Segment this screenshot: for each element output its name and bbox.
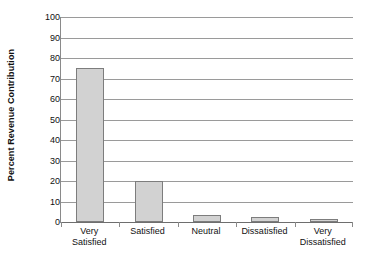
x-axis-label-line2: Dissatisfied (294, 237, 352, 248)
bars-group (61, 17, 353, 222)
y-axis-title: Percent Revenue Contribution (0, 0, 22, 230)
bar-slot (178, 17, 236, 222)
x-axis-label-line1: Dissatisfied (241, 226, 287, 236)
x-tick-mark (352, 222, 353, 227)
bar-slot (236, 17, 294, 222)
y-tick-label: 70 (34, 75, 60, 84)
y-tick-label: 10 (34, 198, 60, 207)
bar-satisfied[interactable] (135, 181, 163, 222)
x-axis-label-neutral: Neutral (177, 226, 235, 237)
bar-slot (119, 17, 177, 222)
y-tick-label: 60 (34, 95, 60, 104)
y-tick-label: 30 (34, 157, 60, 166)
x-axis-label-satisfied: Satisfied (118, 226, 176, 237)
x-axis-label-line2: Satisfied (60, 237, 118, 248)
y-tick-label: 20 (34, 177, 60, 186)
y-tick-label: 100 (34, 13, 60, 22)
y-tick-label: 40 (34, 136, 60, 145)
y-axis-title-text: Percent Revenue Contribution (6, 49, 16, 181)
x-axis-label-very-satisfied: VerySatisfied (60, 226, 118, 248)
y-tick-label: 90 (34, 34, 60, 43)
y-axis-tick-labels: 0102030405060708090100 (26, 17, 60, 222)
x-axis-label-line1: Very (314, 226, 332, 236)
y-tick-label: 80 (34, 54, 60, 63)
x-axis-label-line1: Satisfied (130, 226, 165, 236)
plot-area (60, 17, 353, 222)
x-axis-label-very-dissatisfied: VeryDissatisfied (294, 226, 352, 248)
x-axis-label-line1: Neutral (191, 226, 220, 236)
x-axis-label-line1: Very (80, 226, 98, 236)
bar-slot (61, 17, 119, 222)
bar-chart-figure: Percent Revenue Contribution 01020304050… (0, 0, 365, 264)
x-axis-category-labels: VerySatisfiedSatisfiedNeutralDissatisfie… (60, 226, 352, 264)
y-tick-label: 50 (34, 116, 60, 125)
y-tick-label: 0 (34, 218, 60, 227)
bar-neutral[interactable] (193, 215, 221, 222)
bar-very-satisfied[interactable] (76, 68, 104, 222)
x-axis-label-dissatisfied: Dissatisfied (235, 226, 293, 237)
bar-slot (295, 17, 353, 222)
